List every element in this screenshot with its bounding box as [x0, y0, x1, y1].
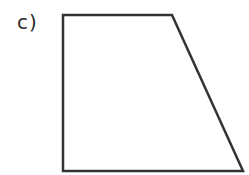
trapezoid-shape	[63, 15, 243, 171]
trapezoid-diagram	[0, 0, 249, 175]
